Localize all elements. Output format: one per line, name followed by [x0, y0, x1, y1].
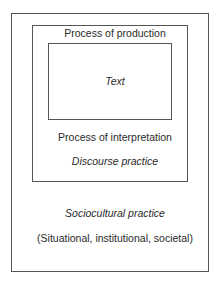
sociocultural-levels-label: (Situational, institutional, societal) [11, 232, 219, 244]
sociocultural-practice-label: Sociocultural practice [11, 207, 219, 219]
process-of-interpretation-label: Process of interpretation [11, 131, 219, 143]
process-of-production-label: Process of production [11, 27, 219, 39]
discourse-practice-label: Discourse practice [11, 155, 219, 167]
text-label: Text [11, 75, 219, 87]
